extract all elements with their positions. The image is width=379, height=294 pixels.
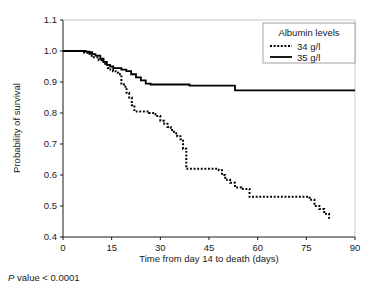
x-tick-label: 15 [106,242,117,253]
survival-chart-figure: 0.40.50.60.70.80.91.01.1 0153045607590 T… [0,0,379,294]
legend-label-35: 35 g/l [297,52,320,63]
series-line-34-g-l [63,51,329,220]
x-axis-title: Time from day 14 to death (days) [139,253,279,264]
y-tick-label: 0.6 [44,169,57,180]
y-tick-label: 0.8 [44,107,57,118]
y-tick-label: 0.5 [44,200,57,211]
y-tick-label: 0.9 [44,76,57,87]
data-series-group [63,51,355,220]
p-value-value: value < 0.0001 [14,272,79,283]
chart-legend: Albumin levels 34 g/l 35 g/l [263,23,355,63]
x-tick-label: 45 [204,242,215,253]
y-axis-tick-labels: 0.40.50.60.70.80.91.01.1 [44,14,57,242]
p-value-annotation: P value < 0.0001 [8,272,80,283]
y-tick-label: 1.1 [44,14,57,25]
y-tick-label: 0.7 [44,138,57,149]
legend-title: Albumin levels [278,27,339,38]
y-tick-label: 0.4 [44,231,57,242]
x-tick-label: 0 [60,242,65,253]
x-axis-tick-labels: 0153045607590 [60,242,360,253]
y-tick-label: 1.0 [44,45,57,56]
legend-label-34: 34 g/l [297,41,320,52]
x-tick-label: 90 [350,242,361,253]
x-tick-label: 75 [301,242,312,253]
x-tick-label: 30 [155,242,166,253]
y-axis-title: Probability of survival [11,83,22,173]
kaplan-meier-chart: 0.40.50.60.70.80.91.01.1 0153045607590 T… [0,0,379,294]
x-tick-label: 60 [252,242,263,253]
